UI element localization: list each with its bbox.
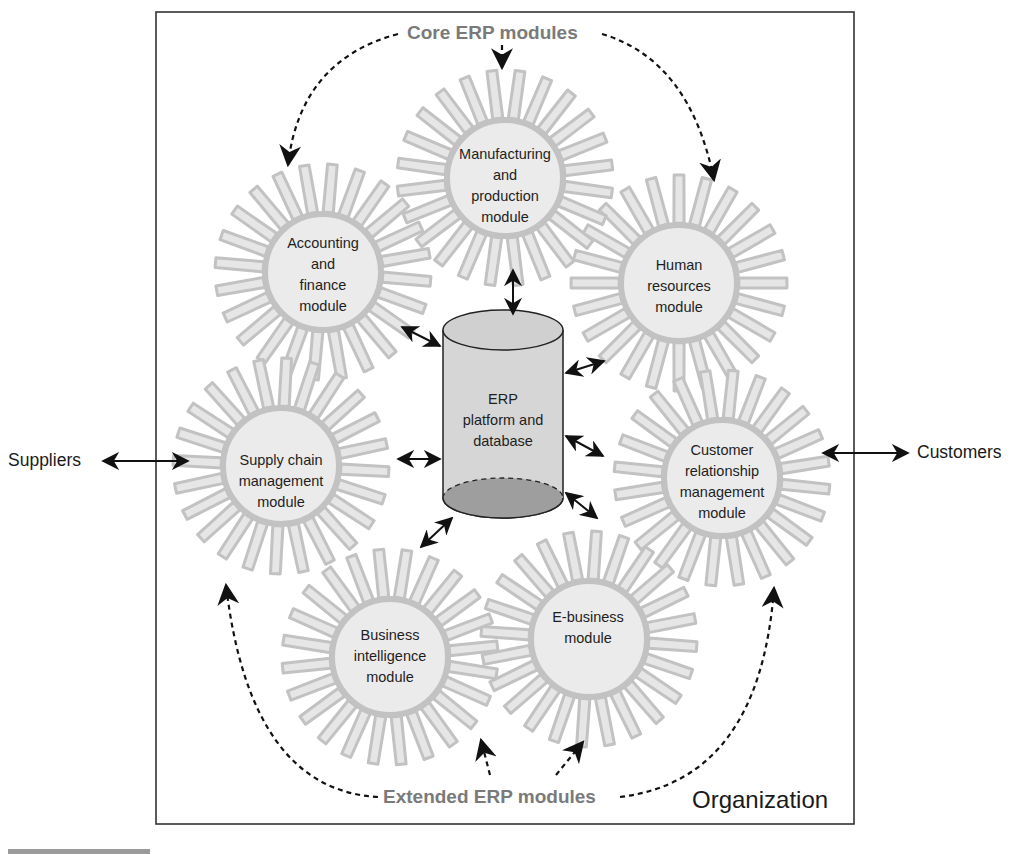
e-business-module-label: E-businessmodule <box>528 607 648 649</box>
organization-label: Organization <box>692 786 828 814</box>
manufacturing-module-label: Manufacturingandproductionmodule <box>443 144 567 228</box>
footer-bar <box>8 849 150 854</box>
erp-diagram: Core ERP modules Extended ERP modules Or… <box>0 0 1019 854</box>
suppliers-label: Suppliers <box>8 450 81 471</box>
erp-platform-database-label: ERPplatform anddatabase <box>443 389 563 452</box>
crm-module-label: Customerrelationshipmanagementmodule <box>660 440 784 524</box>
business-intelligence-module-label: Businessintelligencemodule <box>330 625 450 688</box>
extended-erp-modules-label: Extended ERP modules <box>383 786 596 808</box>
core-erp-modules-label: Core ERP modules <box>407 22 578 44</box>
customers-label: Customers <box>917 442 1002 463</box>
accounting-module-label: Accountingandfinancemodule <box>263 233 383 317</box>
supply-chain-module-label: Supply chainmanagementmodule <box>221 450 341 513</box>
human-resources-module-label: Humanresourcesmodule <box>619 255 739 318</box>
